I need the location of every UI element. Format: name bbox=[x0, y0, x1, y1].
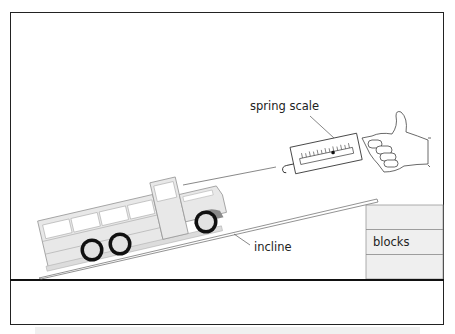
truck-wheel-rear-1 bbox=[81, 239, 104, 262]
truck-wheel-front bbox=[195, 211, 218, 234]
bottom-strip bbox=[35, 327, 420, 334]
truck-wheel-rear-2 bbox=[109, 233, 132, 256]
incline-label: incline bbox=[254, 240, 292, 254]
incline-diagram: blocks incline bbox=[0, 0, 455, 334]
blocks-label: blocks bbox=[373, 235, 410, 249]
spring-scale-label: spring scale bbox=[250, 99, 319, 113]
